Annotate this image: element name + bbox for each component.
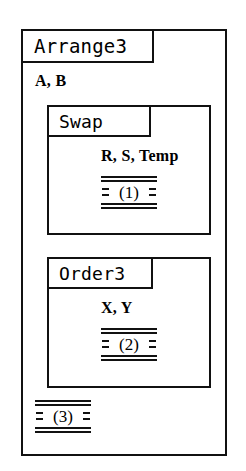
parameter-list-order3: X, Y (101, 299, 133, 317)
marker-label: (3) (35, 406, 91, 427)
procedure-block-swap: Swap R, S, Temp (1) (47, 105, 211, 235)
marker-rule-bottom-inner (35, 427, 91, 429)
marker-rule-bottom-outer (101, 207, 157, 209)
procedure-block-order3: Order3 X, Y (2) (47, 257, 211, 388)
parameter-list-arrange3: A, B (35, 72, 66, 90)
marker-rule-bottom-outer (101, 359, 157, 361)
procedure-name-tag-arrange3: Arrange3 (21, 29, 154, 63)
marker-rule-top-outer (101, 176, 157, 178)
marker-label: (2) (101, 334, 157, 355)
statement-body-marker-3: (3) (35, 400, 91, 434)
procedure-block-arrange3: Arrange3 A, B Swap R, S, Temp (1) (21, 29, 227, 456)
marker-rule-bottom-outer (35, 431, 91, 433)
statement-body-marker-1: (1) (101, 176, 157, 210)
procedure-name-label: Arrange3 (34, 35, 127, 57)
marker-rule-top-outer (101, 328, 157, 330)
marker-rule-top-outer (35, 400, 91, 402)
diagram-canvas: Arrange3 A, B Swap R, S, Temp (1) (0, 0, 246, 471)
procedure-name-tag-order3: Order3 (47, 257, 153, 289)
parameter-list-swap: R, S, Temp (101, 147, 179, 165)
marker-rule-bottom-inner (101, 355, 157, 357)
statement-body-marker-2: (2) (101, 328, 157, 362)
procedure-name-label: Swap (59, 111, 103, 132)
procedure-name-label: Order3 (59, 263, 125, 284)
procedure-name-tag-swap: Swap (47, 105, 151, 137)
marker-rule-bottom-inner (101, 203, 157, 205)
marker-label: (1) (101, 182, 157, 203)
